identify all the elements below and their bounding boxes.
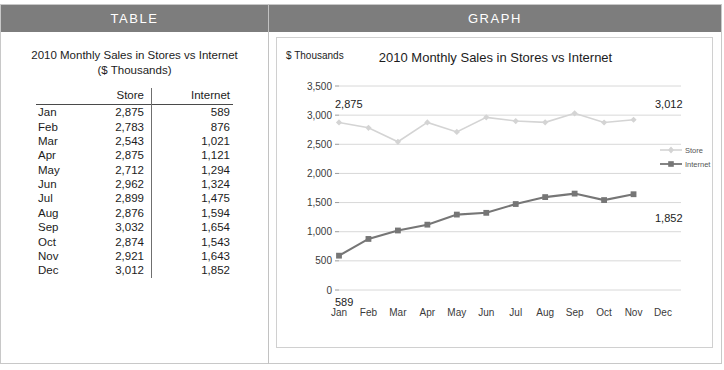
cell-internet: 1,654 xyxy=(151,220,233,234)
x-axis-tick-label: May xyxy=(447,307,466,318)
screenshot-root: TABLE GRAPH 2010 Monthly Sales in Stores… xyxy=(0,0,724,370)
graph-panel-header-label: GRAPH xyxy=(468,11,522,26)
data-point-marker xyxy=(454,129,460,135)
cell-internet: 1,475 xyxy=(151,191,233,205)
legend-swatch-internet-icon xyxy=(660,159,682,169)
cell-month: Feb xyxy=(36,119,88,133)
table-title-line1: 2010 Monthly Sales in Stores vs Internet xyxy=(1,48,268,63)
cell-month: Dec xyxy=(36,263,88,277)
table-head: Store Internet xyxy=(36,88,233,105)
y-axis-tick-label: 3,000 xyxy=(307,110,332,121)
data-point-marker xyxy=(572,191,578,197)
y-axis-tick-label: 0 xyxy=(326,285,332,296)
table-row: Apr2,8751,121 xyxy=(36,148,233,162)
chart-container: $ Thousands 2010 Monthly Sales in Stores… xyxy=(276,37,713,348)
annotation-internet-end: 1,852 xyxy=(655,212,683,224)
x-axis-tick-label: Sep xyxy=(566,307,584,318)
data-point-marker xyxy=(601,197,607,203)
table-row: Feb2,783876 xyxy=(36,119,233,133)
data-point-marker xyxy=(454,212,460,218)
table-wrapper: Store Internet Jan2,875589Feb2,783876Mar… xyxy=(36,88,233,278)
legend-label-store: Store xyxy=(685,146,703,155)
sales-table: Store Internet Jan2,875589Feb2,783876Mar… xyxy=(36,88,233,278)
table-row: Nov2,9211,643 xyxy=(36,249,233,263)
data-point-marker xyxy=(513,118,519,124)
cell-month: Jan xyxy=(36,105,88,120)
cell-month: Nov xyxy=(36,249,88,263)
x-axis-tick-label: Mar xyxy=(389,307,407,318)
data-point-marker xyxy=(542,194,548,200)
table-row: Oct2,8741,543 xyxy=(36,234,233,248)
x-axis-tick-label: Apr xyxy=(420,307,436,318)
data-point-marker xyxy=(542,119,548,125)
table-row: Aug2,8761,594 xyxy=(36,206,233,220)
cell-month: May xyxy=(36,163,88,177)
legend-item-store[interactable]: Store xyxy=(660,143,710,157)
annotation-store-start: 2,875 xyxy=(335,98,363,110)
cell-month: Aug xyxy=(36,206,88,220)
y-axis-tick-label: 1,500 xyxy=(307,197,332,208)
cell-month: Jul xyxy=(36,191,88,205)
table-panel-header: TABLE xyxy=(1,5,268,32)
cell-internet: 876 xyxy=(151,119,233,133)
cell-internet: 1,121 xyxy=(151,148,233,162)
y-axis-tick-label: 3,500 xyxy=(307,81,332,92)
x-axis-tick-label: Aug xyxy=(536,307,554,318)
x-axis-tick-label: Jan xyxy=(331,307,347,318)
table-row: Mar2,5431,021 xyxy=(36,134,233,148)
cell-store: 2,874 xyxy=(88,234,151,248)
table-row: Jun2,9621,324 xyxy=(36,177,233,191)
data-point-marker xyxy=(631,191,637,197)
chart-legend: Store Internet xyxy=(660,143,710,171)
table-title: 2010 Monthly Sales in Stores vs Internet… xyxy=(1,48,268,78)
data-point-marker xyxy=(601,119,607,125)
cell-internet: 1,324 xyxy=(151,177,233,191)
table-panel: 2010 Monthly Sales in Stores vs Internet… xyxy=(1,32,268,363)
table-row: Jan2,875589 xyxy=(36,105,233,120)
x-axis-tick-label: Feb xyxy=(360,307,378,318)
data-point-marker xyxy=(366,236,372,242)
data-point-marker xyxy=(336,119,342,125)
legend-label-internet: Internet xyxy=(685,160,710,169)
x-axis-tick-label: Nov xyxy=(625,307,643,318)
table-row: Sep3,0321,654 xyxy=(36,220,233,234)
table-panel-header-label: TABLE xyxy=(110,11,158,26)
cell-month: Mar xyxy=(36,134,88,148)
table-header-row: Store Internet xyxy=(36,88,233,105)
cell-month: Oct xyxy=(36,234,88,248)
cell-store: 2,899 xyxy=(88,191,151,205)
table-row: Jul2,8991,475 xyxy=(36,191,233,205)
cell-store: 2,875 xyxy=(88,105,151,120)
col-header-internet: Internet xyxy=(151,88,233,105)
column-divider-rule xyxy=(151,88,152,278)
y-axis-tick-label: 2,500 xyxy=(307,139,332,150)
data-point-marker xyxy=(513,201,519,207)
col-header-store: Store xyxy=(88,88,151,105)
cell-store: 2,783 xyxy=(88,119,151,133)
cell-internet: 1,294 xyxy=(151,163,233,177)
annotation-store-end: 3,012 xyxy=(655,98,683,110)
x-axis-tick-label: Oct xyxy=(596,307,612,318)
table-title-line2: ($ Thousands) xyxy=(1,63,268,78)
y-axis-tick-label: 500 xyxy=(315,255,332,266)
cell-store: 2,875 xyxy=(88,148,151,162)
table-row: May2,7121,294 xyxy=(36,163,233,177)
cell-month: Sep xyxy=(36,220,88,234)
cell-store: 2,962 xyxy=(88,177,151,191)
data-point-marker xyxy=(483,210,489,216)
graph-panel-header: GRAPH xyxy=(269,5,721,32)
cell-internet: 1,543 xyxy=(151,234,233,248)
data-point-marker xyxy=(424,222,430,228)
cell-store: 3,032 xyxy=(88,220,151,234)
legend-item-internet[interactable]: Internet xyxy=(660,157,710,171)
x-axis-tick-label: Jun xyxy=(478,307,494,318)
cell-store: 2,543 xyxy=(88,134,151,148)
cell-internet: 1,852 xyxy=(151,263,233,277)
data-point-marker xyxy=(336,253,342,259)
cell-month: Jun xyxy=(36,177,88,191)
cell-internet: 589 xyxy=(151,105,233,120)
graph-panel: $ Thousands 2010 Monthly Sales in Stores… xyxy=(269,32,721,363)
y-axis-tick-label: 1,000 xyxy=(307,226,332,237)
cell-store: 2,712 xyxy=(88,163,151,177)
cell-internet: 1,594 xyxy=(151,206,233,220)
